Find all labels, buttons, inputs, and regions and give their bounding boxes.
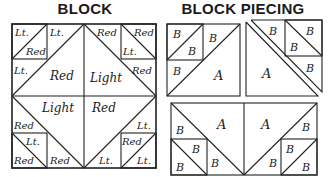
label-bottom-left-tri: Red (49, 155, 70, 166)
label-top-right-tri: Red (96, 27, 117, 38)
label-bottom-right-tri: Lt. (98, 155, 113, 166)
piece-label: B (268, 25, 277, 38)
label-top-left-tri: Lt. (49, 27, 64, 38)
label-top-left-small-upper: Lt. (14, 27, 29, 38)
label-bottom-right-small-upper: Red (121, 136, 142, 147)
piecing-bottom-unit: A A B B B B B B B B (171, 103, 317, 175)
piece-label: B (268, 157, 277, 170)
label-top-left-small-lower: Red (25, 46, 46, 57)
piece-label: B (175, 124, 184, 137)
piece-label: B (175, 161, 184, 174)
piece-label: B (191, 143, 200, 156)
quilt-diagram: Lt. Red Lt. Lt. Red Light Red Red Lt. Re… (0, 0, 333, 177)
label-top-right-small-lower: Lt. (122, 46, 137, 57)
piece-label: B (285, 143, 294, 156)
label-left-mid-small: Lt. (13, 65, 28, 76)
block-diagram: Lt. Red Lt. Lt. Red Light Red Red Lt. Re… (12, 24, 156, 168)
piece-label: A (213, 68, 223, 83)
label-bottom-left-small-upper: Lt. (25, 136, 40, 147)
piece-label: B (210, 157, 219, 170)
piecing-top-left-unit: B B B B A (167, 24, 240, 96)
label-top-left-large: Red (49, 69, 74, 83)
piece-label: A (216, 117, 226, 132)
label-left-mid-small-bottom: Red (13, 120, 34, 131)
piece-label: B (172, 65, 181, 78)
label-bottom-left-large: Light (41, 101, 74, 115)
piece-label: A (261, 66, 271, 81)
piece-label: B (208, 32, 217, 45)
label-bottom-left-small-lower: Red (13, 155, 34, 166)
label-right-mid-small: Red (131, 65, 152, 76)
piece-label: B (305, 25, 314, 38)
label-bottom-right-large: Red (91, 101, 116, 115)
piece-label: A (260, 117, 270, 132)
piece-label: B (289, 41, 298, 54)
piece-label: B (301, 161, 310, 174)
label-bottom-right-small-lower: Lt. (136, 155, 151, 166)
label-top-right-large: Light (89, 71, 122, 85)
piece-label: B (301, 121, 310, 134)
label-top-right-small-upper: Red (133, 27, 154, 38)
piecing-top-right-unit: A B B B B (246, 20, 322, 96)
label-right-mid-small-bottom: Lt. (136, 120, 151, 131)
piece-label: B (305, 62, 314, 75)
piece-label: B (187, 45, 196, 58)
piece-label: B (172, 28, 181, 41)
